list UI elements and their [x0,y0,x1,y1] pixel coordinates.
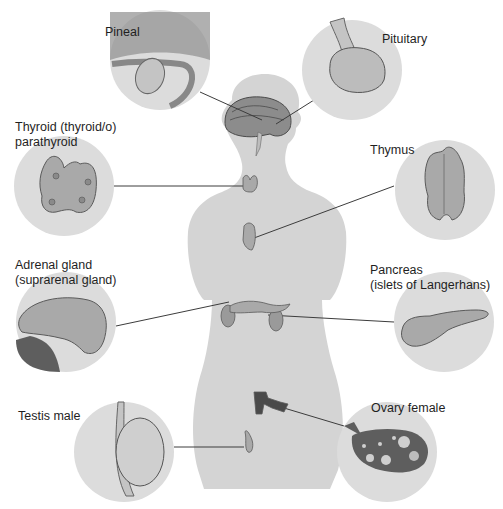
female-silhouette [188,74,347,489]
thyroid-label-line2: parathyroid [15,135,78,150]
thymus-label: Thymus [370,143,414,158]
thymus-small [243,223,255,250]
ovary-callout [337,402,437,502]
thyroid-callout [14,136,114,236]
adrenal-label-line2: (suprarenal gland) [15,273,116,288]
ovary-label: Ovary female [371,401,445,416]
pancreas-label-line2: (islets of Langerhans) [370,278,490,293]
pineal-label: Pineal [105,25,140,40]
pancreas-label-line1: Pancreas [370,263,423,278]
testis-label: Testis male [18,409,81,424]
endocrine-diagram: Pineal Pituitary Thyroid (thyroid/o) par… [0,0,503,509]
adrenal-label-line1: Adrenal gland [15,258,92,273]
testis-callout [74,402,174,502]
diagram-artwork [0,0,503,509]
thyroid-label-line1: Thyroid (thyroid/o) [15,120,116,135]
pituitary-label: Pituitary [382,32,427,47]
